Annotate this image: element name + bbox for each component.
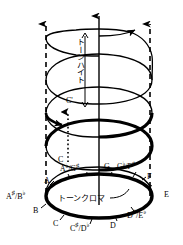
- note-label-c-sharp-d-flat: C♯/D♭: [70, 225, 90, 233]
- note-text-2: /B: [15, 192, 23, 201]
- note-label-b: B: [33, 207, 38, 215]
- note-text-2: /G: [69, 164, 77, 173]
- accidental-flat: ♭: [87, 221, 90, 228]
- accidental-sharp: ♯: [76, 162, 79, 169]
- note-label-d: D: [110, 222, 116, 230]
- note-label-d-sharp-e-flat: D♯/E♭: [127, 212, 146, 220]
- note-text: F: [147, 172, 151, 181]
- note-text: G: [104, 162, 110, 171]
- note-label-a-sharp-b-flat: A♯/B♭: [6, 193, 26, 201]
- helix-diagram-svg: [0, 0, 183, 245]
- note-text: B: [33, 206, 38, 215]
- tone-chroma-label: トーンクロマ: [58, 192, 104, 203]
- chroma-leader-line: [110, 189, 129, 198]
- marker-upper-c: C': [66, 96, 73, 105]
- marker-lower-c: C: [58, 155, 63, 164]
- note-text-2: /D: [79, 224, 87, 233]
- note-label-a-flat-g-sharp: A♭/G♯: [60, 165, 79, 173]
- note-label-e: E: [164, 191, 169, 199]
- note-label-c: C: [53, 220, 58, 228]
- note-label-a: A: [44, 177, 50, 185]
- accidental-sharp: ♯: [132, 160, 135, 167]
- accidental-flat: ♭: [143, 208, 146, 215]
- note-text: D: [110, 221, 116, 230]
- note-text: C: [53, 219, 58, 228]
- note-label-g-flat-f-sharp: G♭/F♯: [117, 163, 135, 171]
- helix-direction-arrow: [46, 113, 62, 125]
- note-text: A: [44, 176, 50, 185]
- tone-helix-figure: トーンハイト トーンクロマ C' C A♯/B♭ B C C♯/D♭ D D♯/…: [0, 0, 183, 245]
- tone-height-label: トーンハイト: [75, 38, 84, 83]
- note-label-f: F: [147, 173, 151, 181]
- note-text: E: [164, 190, 169, 199]
- accidental-flat: ♭: [23, 189, 26, 196]
- note-label-g: G: [104, 163, 110, 171]
